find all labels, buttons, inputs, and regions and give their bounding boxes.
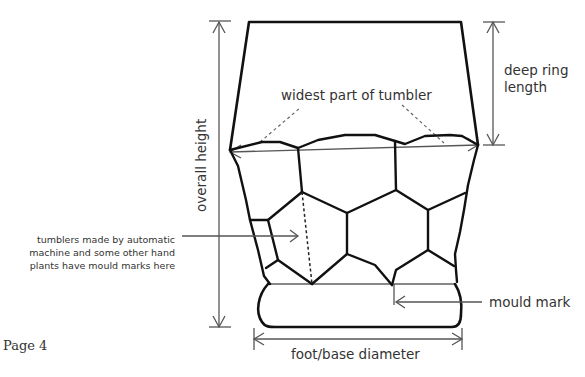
tumbler-foot bbox=[258, 284, 461, 327]
tumbler-upper-section bbox=[230, 22, 478, 150]
overall-height-dimension bbox=[209, 21, 231, 327]
widest-part-dimension bbox=[230, 105, 478, 158]
deep-ring-label-line1: deep ring bbox=[504, 62, 568, 78]
foot-base-diameter-label: foot/base diameter bbox=[291, 346, 420, 362]
mould-mark-arrow bbox=[394, 284, 482, 308]
tumbler-measurement-diagram: widest part of tumbler deep ring length … bbox=[0, 0, 585, 377]
overall-height-label: overall height bbox=[193, 119, 209, 212]
mould-note-arrow bbox=[182, 230, 298, 242]
deep-ring-length-dimension bbox=[483, 22, 505, 145]
widest-part-label: widest part of tumbler bbox=[281, 87, 432, 103]
tumbler-cut-facets bbox=[230, 135, 478, 285]
page-number: Page 4 bbox=[3, 338, 47, 353]
mould-mark-label: mould mark bbox=[489, 294, 571, 310]
mould-seam-line bbox=[302, 192, 312, 284]
mould-note-line2: machine and some other hand bbox=[29, 247, 175, 258]
deep-ring-label-line2: length bbox=[504, 79, 547, 95]
mould-note-line1: tumblers made by automatic bbox=[37, 234, 175, 245]
mould-note-line3: plants have mould marks here bbox=[30, 260, 175, 271]
